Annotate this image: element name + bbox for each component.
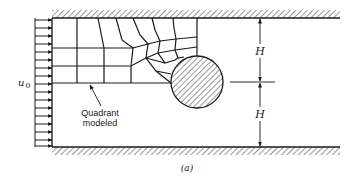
inlet-velocity-arrows [35, 18, 52, 147]
top-wall [52, 10, 340, 18]
annotation-line-1: Quadrant [81, 108, 119, 118]
dimension-label-lower: H [254, 108, 265, 121]
annotation-line-2: modeled [83, 118, 118, 128]
cylinder [171, 56, 223, 108]
figure-caption: (a) [181, 163, 194, 173]
annotation-leader-arrow [90, 85, 101, 106]
bottom-wall [52, 147, 340, 155]
dimension-label-upper: H [254, 45, 265, 58]
inlet-velocity-label: u0 [18, 77, 31, 90]
flow-past-cylinder-diagram: H H u0 Quadrant modeled (a) [0, 0, 356, 180]
